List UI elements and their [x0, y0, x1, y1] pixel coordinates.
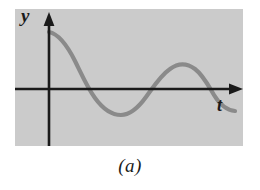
- plot-svg: [15, 9, 243, 146]
- t-axis-arrowhead: [229, 84, 243, 95]
- damped-oscillation-curve: [49, 32, 235, 115]
- figure-container: y t (a): [0, 0, 260, 190]
- t-axis-label: t: [217, 96, 222, 114]
- figure-caption: (a): [0, 155, 260, 177]
- plot-panel: [15, 9, 243, 146]
- y-axis-label: y: [21, 6, 29, 25]
- y-axis-arrowhead: [44, 12, 55, 26]
